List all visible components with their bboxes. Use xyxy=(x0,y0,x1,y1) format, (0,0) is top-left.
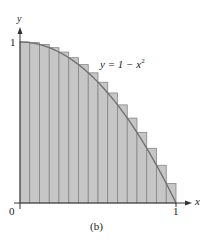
y-axis-arrow-icon xyxy=(18,27,23,34)
figure-caption: (b) xyxy=(90,221,103,232)
riemann-rectangle xyxy=(157,165,167,203)
riemann-rectangle xyxy=(118,105,128,203)
x-axis-arrow-icon xyxy=(185,201,192,206)
riemann-rectangle xyxy=(108,93,118,203)
y-axis-label: y xyxy=(17,14,21,24)
curve-label-exponent: 2 xyxy=(141,57,145,65)
curve-label-text: y = 1 − x xyxy=(100,58,141,70)
x-axis-label: x xyxy=(195,196,200,207)
riemann-rectangle xyxy=(49,48,59,203)
riemann-rectangle xyxy=(98,82,108,203)
riemann-rectangle xyxy=(88,73,98,203)
riemann-rectangle xyxy=(137,133,147,203)
riemann-rectangle xyxy=(69,58,79,203)
riemann-rectangles xyxy=(20,42,176,203)
curve-label: y = 1 − x2 xyxy=(100,58,145,70)
riemann-rectangle xyxy=(79,65,89,203)
x-tick-label-one: 1 xyxy=(173,206,179,217)
origin-label: 0 xyxy=(9,206,15,217)
riemann-rectangle xyxy=(59,52,69,203)
y-tick-label-one: 1 xyxy=(10,37,16,48)
riemann-rectangle xyxy=(20,42,30,203)
riemann-rectangle xyxy=(30,43,40,203)
riemann-rectangle xyxy=(40,45,50,203)
